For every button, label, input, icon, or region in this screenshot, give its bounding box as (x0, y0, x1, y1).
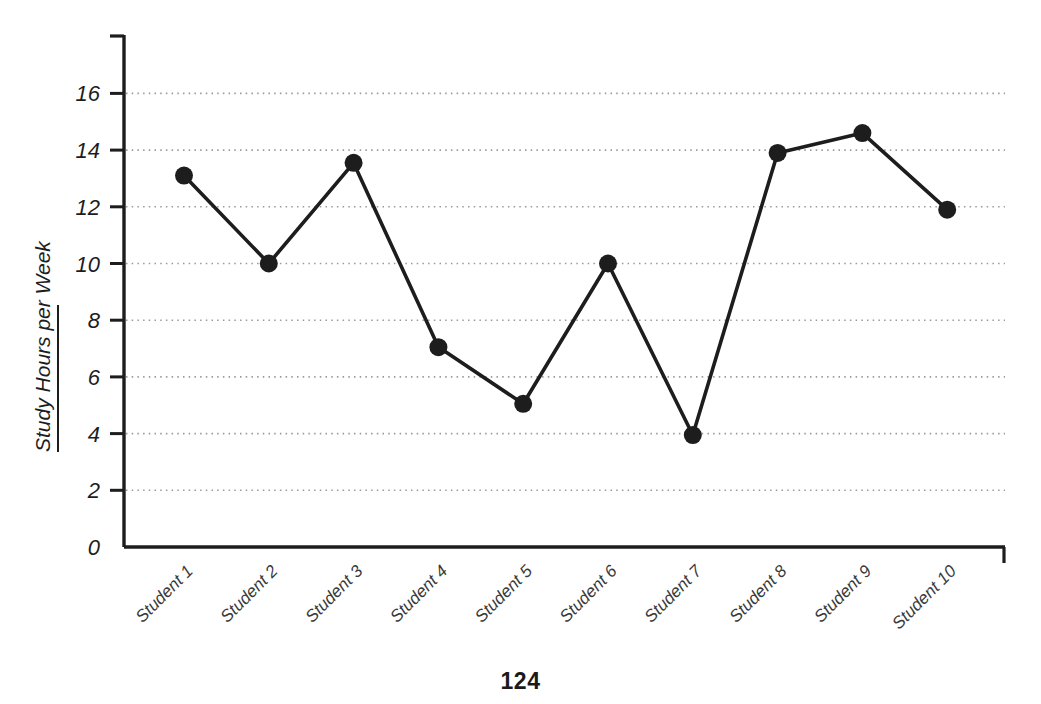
data-point-marker (345, 154, 363, 172)
y-axis-tick-label: 0 (88, 535, 101, 560)
y-axis-tick-label: 10 (76, 252, 101, 277)
data-point-marker (260, 255, 278, 273)
data-marker-group (175, 124, 956, 444)
line-chart: 0246810121416 Student 1Student 2Student … (0, 0, 1041, 704)
y-tick-group: 0246810121416 (76, 81, 124, 560)
data-line (184, 133, 947, 435)
x-axis-tick-label: Student 10 (888, 561, 960, 633)
x-axis-tick-label: Student 9 (810, 561, 875, 626)
gridline-group (126, 93, 1005, 490)
y-axis-tick-label: 12 (76, 195, 100, 220)
x-axis-tick-label: Student 6 (556, 561, 621, 626)
x-axis-tick-label: Student 5 (471, 561, 536, 626)
page-number: 124 (0, 668, 1041, 695)
data-point-marker (429, 338, 447, 356)
y-axis-tick-label: 2 (87, 478, 100, 503)
data-point-marker (853, 124, 871, 142)
y-axis-title: Study Hours per Week (31, 240, 58, 452)
x-axis-tick-label: Student 2 (217, 561, 282, 626)
data-point-marker (769, 144, 787, 162)
data-point-marker (514, 395, 532, 413)
y-axis-title-text: Study Hours per Week (31, 240, 54, 452)
x-axis-tick-label: Student 4 (386, 561, 451, 626)
axis-group (110, 35, 1005, 563)
data-point-marker (684, 426, 702, 444)
data-point-marker (175, 167, 193, 185)
data-point-marker (599, 255, 617, 273)
x-axis-tick-label: Student 7 (641, 561, 706, 626)
y-axis-tick-label: 8 (88, 308, 101, 333)
y-axis-tick-label: 4 (88, 422, 100, 447)
figure-page: 0246810121416 Student 1Student 2Student … (0, 0, 1041, 704)
data-point-marker (938, 201, 956, 219)
y-axis-tick-label: 16 (76, 81, 101, 106)
x-axis-tick-label: Student 8 (726, 561, 791, 626)
x-tick-label-group: Student 1Student 2Student 3Student 4Stud… (132, 561, 960, 633)
x-axis-tick-label: Student 1 (132, 561, 197, 626)
y-axis-tick-label: 14 (76, 138, 100, 163)
y-axis-tick-label: 6 (88, 365, 101, 390)
x-axis-tick-label: Student 3 (302, 561, 367, 626)
